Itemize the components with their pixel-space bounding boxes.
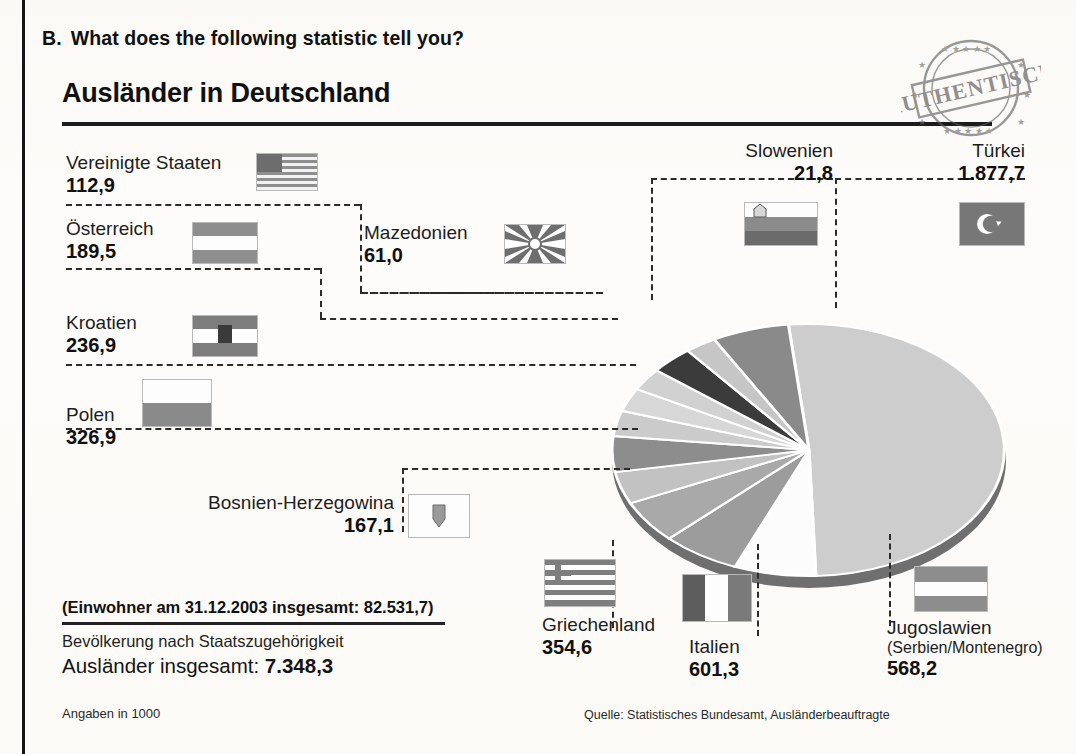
label-macedonia: Mazedonien 61,0 xyxy=(364,222,468,266)
leader-italy-v xyxy=(757,544,759,636)
infographic: Ausländer in Deutschland ★ ★ ★ ★ ★ ★ ★ ★… xyxy=(44,74,1054,746)
svg-text:★: ★ xyxy=(918,60,926,70)
leader-austria2 xyxy=(320,318,618,320)
subtitle: Bevölkerung nach Staatszugehörigkeit xyxy=(62,632,344,651)
label-croatia-name: Kroatien xyxy=(66,312,137,334)
label-austria-value: 189,5 xyxy=(66,240,154,263)
label-croatia-value: 236,9 xyxy=(66,334,137,357)
label-yugoslavia: Jugoslawien (Serbien/Montenegro) 568,2 xyxy=(887,617,1043,680)
source-note: Quelle: Statistisches Bundesamt, Ausländ… xyxy=(584,708,890,722)
label-greece: Griechenland 354,6 xyxy=(542,614,655,658)
leader-bosnia xyxy=(402,468,630,470)
scan-edge-line xyxy=(22,0,25,754)
label-turkey: Türkei 1.877,7 xyxy=(844,140,1025,184)
label-croatia: Kroatien 236,9 xyxy=(66,312,137,356)
total-population-note: (Einwohner am 31.12.2003 insgesamt: 82.5… xyxy=(62,598,433,617)
label-yugoslavia-subname: (Serbien/Montenegro) xyxy=(887,639,1043,657)
label-yugoslavia-name: Jugoslawien xyxy=(887,617,1043,639)
question-text: What does the following statistic tell y… xyxy=(71,27,464,49)
leader-bosnia-v xyxy=(402,468,404,532)
flag-hr xyxy=(192,315,258,357)
label-italy-value: 601,3 xyxy=(689,658,740,681)
scanned-page: B.What does the following statistic tell… xyxy=(0,0,1076,754)
svg-text:★ ★ ★ ★ ★: ★ ★ ★ ★ ★ xyxy=(943,126,993,136)
label-italy: Italien 601,3 xyxy=(689,636,740,680)
label-usa: Vereinigte Staaten 112,9 xyxy=(66,152,221,196)
leader-turkey-v xyxy=(835,178,837,308)
label-italy-name: Italien xyxy=(689,636,740,658)
leader-yugo-v xyxy=(889,534,891,626)
flag-it xyxy=(682,574,752,622)
leader-austria xyxy=(66,268,320,270)
foreigners-total: Ausländer insgesamt: 7.348,3 xyxy=(62,654,333,678)
flag-ba xyxy=(408,494,470,538)
worksheet-question: B.What does the following statistic tell… xyxy=(42,27,464,50)
label-bosnia: Bosnien-Herzegowina 167,1 xyxy=(162,492,394,536)
flag-yu xyxy=(914,566,988,612)
flag-mk xyxy=(504,224,566,264)
label-bosnia-name: Bosnien-Herzegowina xyxy=(162,492,394,514)
label-slovenia-name: Slowenien xyxy=(659,140,833,162)
flag-gr xyxy=(544,559,616,607)
title-underline xyxy=(62,122,992,126)
flag-si xyxy=(744,202,818,246)
authentisch-stamp: ★ ★ ★ ★ ★ ★ ★ ★ ★ ★ ★★ ★★ ★★ AUTHENTISCH xyxy=(901,26,1041,156)
leader-usa-v xyxy=(360,204,362,292)
label-macedonia-value: 61,0 xyxy=(364,244,468,267)
label-austria-name: Österreich xyxy=(66,218,154,240)
units-note: Angaben in 1000 xyxy=(62,706,160,721)
flag-at xyxy=(192,222,258,264)
foreigners-total-label: Ausländer insgesamt: xyxy=(62,654,259,677)
label-bosnia-value: 167,1 xyxy=(162,514,394,537)
question-letter: B. xyxy=(42,27,62,50)
label-greece-value: 354,6 xyxy=(542,636,655,659)
label-slovenia: Slowenien 21,8 xyxy=(659,140,833,184)
label-greece-name: Griechenland xyxy=(542,614,655,636)
footer-rule xyxy=(62,622,445,625)
leader-croatia xyxy=(66,364,636,366)
leader-usa xyxy=(66,204,360,206)
leader-austria-v xyxy=(320,268,322,318)
flag-tr xyxy=(959,202,1025,246)
chart-title: Ausländer in Deutschland xyxy=(62,78,390,109)
label-usa-value: 112,9 xyxy=(66,174,221,197)
flag-us xyxy=(256,153,318,191)
label-turkey-value: 1.877,7 xyxy=(844,162,1025,185)
label-poland: Polen 326,9 xyxy=(66,404,116,448)
label-austria: Österreich 189,5 xyxy=(66,218,154,262)
svg-text:★: ★ xyxy=(1017,117,1025,127)
label-slovenia-value: 21,8 xyxy=(659,162,833,185)
label-usa-name: Vereinigte Staaten xyxy=(66,152,221,174)
label-macedonia-name: Mazedonien xyxy=(364,222,468,244)
label-poland-value: 326,9 xyxy=(66,426,116,449)
leader-poland xyxy=(66,428,638,430)
flag-pl xyxy=(142,379,212,427)
leader-macedonia xyxy=(362,292,602,294)
pie-chart xyxy=(599,282,1019,612)
label-yugoslavia-value: 568,2 xyxy=(887,657,1043,680)
leader-slovenia-v xyxy=(651,178,653,300)
svg-text:★ ★ ★ ★ ★: ★ ★ ★ ★ ★ xyxy=(941,44,991,54)
label-turkey-name: Türkei xyxy=(844,140,1025,162)
foreigners-total-value: 7.348,3 xyxy=(265,654,333,677)
label-poland-name: Polen xyxy=(66,404,116,426)
